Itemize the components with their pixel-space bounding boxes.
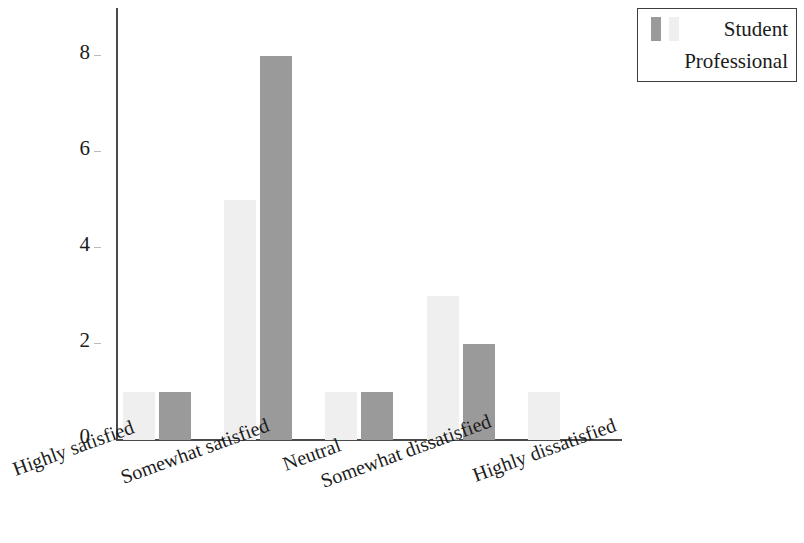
bar-professional-0 <box>123 392 155 440</box>
y-tick-mark <box>94 247 101 248</box>
y-tick-label: 6 <box>80 138 91 159</box>
y-tick-label: 0 <box>80 426 91 447</box>
y-tick-mark <box>94 55 101 56</box>
legend-swatch-student-icon <box>651 17 661 41</box>
y-tick-mark <box>94 343 101 344</box>
bar-professional-4 <box>528 392 560 440</box>
bar-student-2 <box>361 392 393 440</box>
y-tick-label: 2 <box>80 330 91 351</box>
legend-swatch-professional-icon <box>669 17 679 41</box>
y-tick-label: 4 <box>80 234 91 255</box>
y-tick-label: 8 <box>80 42 91 63</box>
bar-professional-3 <box>427 296 459 440</box>
bar-professional-1 <box>224 200 256 440</box>
grouped-bar-chart: 02468 Highly satisfiedSomewhat satisfied… <box>0 0 804 543</box>
bar-student-1 <box>260 56 292 440</box>
legend-row-professional: Professional <box>638 44 796 78</box>
legend-label-professional: Professional <box>684 51 788 72</box>
legend-label-student: Student <box>724 19 788 40</box>
bar-student-3 <box>463 344 495 440</box>
plot-area: 02468 <box>116 8 622 440</box>
bar-student-0 <box>159 392 191 440</box>
chart-legend: Student Professional <box>637 8 797 82</box>
y-tick-mark <box>94 151 101 152</box>
legend-row-student: Student <box>638 12 796 46</box>
bar-professional-2 <box>325 392 357 440</box>
